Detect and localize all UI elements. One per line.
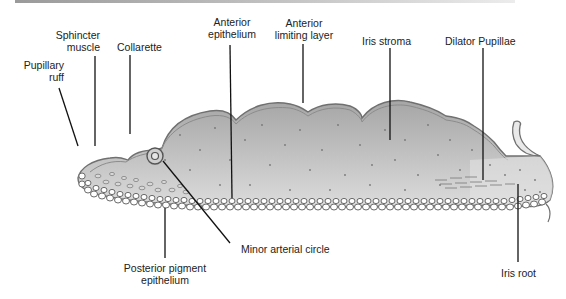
label-line: Pupillary — [6, 59, 64, 71]
leader-pupillary-ruff — [59, 88, 78, 146]
label-anterior-epithelium: Anterior epithelium — [196, 16, 268, 40]
label-line: Sphincter — [50, 29, 100, 41]
root-tail — [546, 204, 550, 222]
minor-arterial-circle-vessel — [147, 148, 163, 164]
label-line: epithelium — [196, 28, 268, 40]
ciliary-fold — [513, 121, 540, 156]
label-line: epithelium — [118, 274, 212, 286]
label-line: ruff — [6, 71, 64, 83]
label-line: muscle — [50, 41, 100, 53]
label-line: Anterior — [266, 17, 342, 29]
label-minor-arterial-circle: Minor arterial circle — [241, 243, 330, 255]
label-pupillary-ruff: Pupillary ruff — [6, 59, 64, 83]
label-line: limiting layer — [266, 29, 342, 41]
label-iris-root: Iris root — [501, 267, 536, 279]
label-anterior-limiting-layer: Anterior limiting layer — [266, 17, 342, 41]
label-sphincter-muscle: Sphincter muscle — [50, 29, 100, 53]
label-collarette: Collarette — [117, 41, 162, 53]
label-line: Anterior — [196, 16, 268, 28]
label-dilator-pupillae: Dilator Pupillae — [445, 35, 516, 47]
label-iris-stroma: Iris stroma — [362, 35, 411, 47]
label-posterior-pigment-epithelium: Posterior pigment epithelium — [118, 262, 212, 286]
label-line: Posterior pigment — [118, 262, 212, 274]
